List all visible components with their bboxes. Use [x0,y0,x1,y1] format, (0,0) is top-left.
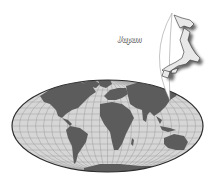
japan-label: Japan [118,34,142,44]
world-map [0,78,215,176]
hokkaido [174,15,194,28]
world-map-illustration [0,0,215,181]
japan-callout [159,13,203,101]
